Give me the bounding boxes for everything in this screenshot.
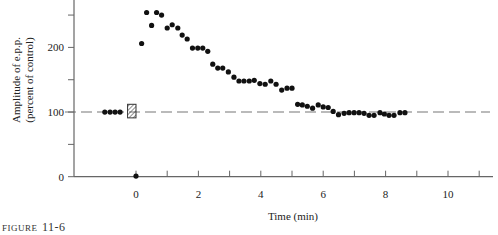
data-point <box>268 78 273 83</box>
x-tick-label: 8 <box>383 188 389 200</box>
data-point <box>279 87 284 92</box>
data-point <box>361 111 366 116</box>
data-point <box>305 104 310 109</box>
chart: 01002000246810 Time (min) Amplitude of e… <box>0 0 498 235</box>
data-point <box>117 109 122 114</box>
data-point <box>386 113 391 118</box>
data-point <box>231 75 236 80</box>
data-point <box>321 104 326 109</box>
data-point <box>170 22 175 27</box>
data-point <box>154 10 159 15</box>
data-point <box>247 78 252 83</box>
data-point <box>377 110 382 115</box>
data-point <box>190 45 195 50</box>
x-tick-label: 10 <box>443 188 455 200</box>
figure-caption: FIGURE 11-6 <box>2 217 66 235</box>
y-tick-label: 0 <box>59 171 65 183</box>
data-point <box>236 78 241 83</box>
data-point <box>263 82 268 87</box>
data-point <box>391 113 396 118</box>
data-point <box>366 113 371 118</box>
data-point <box>241 78 246 83</box>
data-point <box>346 110 351 115</box>
x-tick-label: 4 <box>258 188 264 200</box>
data-point <box>331 109 336 114</box>
x-tick-label: 2 <box>196 188 202 200</box>
data-point <box>210 62 215 67</box>
data-point <box>108 109 113 114</box>
data-point <box>326 105 331 110</box>
stimulus-hatched-box <box>128 104 136 118</box>
data-point <box>300 102 305 107</box>
data-point <box>195 45 200 50</box>
data-point <box>295 102 300 107</box>
data-point <box>284 86 289 91</box>
data-point <box>371 113 376 118</box>
x-tick-label: 0 <box>133 188 139 200</box>
data-point <box>180 33 185 38</box>
data-point <box>402 110 407 115</box>
data-point <box>356 110 361 115</box>
data-point <box>310 106 315 111</box>
y-tick-label: 100 <box>48 106 65 118</box>
data-point <box>289 86 294 91</box>
y-axis-title-line-2: (percent of control) <box>23 37 36 123</box>
data-point <box>112 109 117 114</box>
data-point <box>397 110 402 115</box>
data-point <box>273 82 278 87</box>
y-axis-title: Amplitude of e.p.p. (percent of control) <box>10 37 36 123</box>
data-point <box>215 65 220 70</box>
data-point <box>149 23 154 28</box>
data-point <box>159 12 164 17</box>
data-point <box>200 45 205 50</box>
x-tick-label: 6 <box>320 188 326 200</box>
figure-caption-word: FIGURE <box>2 223 38 233</box>
y-tick-label: 200 <box>48 41 65 53</box>
data-point <box>220 65 225 70</box>
data-point <box>351 110 356 115</box>
data-point <box>175 25 180 30</box>
data-point <box>102 109 107 114</box>
y-axis-title-line-1: Amplitude of e.p.p. <box>10 37 22 123</box>
data-point <box>316 102 321 107</box>
data-point <box>139 41 144 46</box>
data-point <box>257 81 262 86</box>
figure-caption-number: 11-6 <box>42 220 66 234</box>
data-point <box>144 10 149 15</box>
data-point <box>185 36 190 41</box>
x-axis-title: Time (min) <box>268 210 318 223</box>
data-point <box>252 78 257 83</box>
data-point <box>205 49 210 54</box>
data-point <box>226 69 231 74</box>
data-point <box>382 111 387 116</box>
data-point <box>165 25 170 30</box>
data-point <box>342 111 347 116</box>
data-point <box>336 112 341 117</box>
data-point <box>133 173 138 178</box>
